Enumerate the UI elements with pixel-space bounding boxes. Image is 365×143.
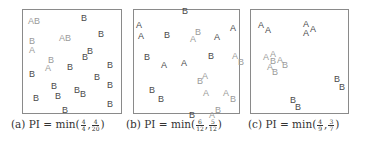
caption-suffix: ): [335, 118, 339, 130]
point-label-b: B: [80, 90, 86, 99]
point-label-b: B: [98, 30, 104, 39]
scatter-panel-a: ABBBABBABBBABBBBBBBBBBBB: [22, 9, 122, 114]
point-label-a: A: [161, 61, 167, 70]
point-label-a: A: [214, 33, 220, 42]
point-label-b: B: [55, 92, 61, 101]
point-label-b: B: [149, 86, 155, 95]
point-label-b: B: [197, 77, 203, 86]
denominator: 7: [328, 126, 334, 132]
point-label-a: A: [136, 21, 142, 30]
point-label-a: A: [203, 89, 209, 98]
point-label-a: A: [310, 25, 316, 34]
caption-suffix: ): [218, 118, 222, 130]
point-label-b: B: [94, 73, 100, 82]
point-label-a: A: [223, 89, 229, 98]
denominator: 9: [317, 126, 323, 132]
point-label-b: B: [51, 82, 57, 91]
point-label-b: B: [164, 31, 170, 40]
point-label-b: B: [81, 14, 87, 23]
caption-a: (a) PI = min(44,420): [11, 118, 105, 132]
denominator: 12: [209, 126, 217, 132]
separator: ,: [87, 118, 90, 130]
point-label-b: B: [62, 106, 68, 115]
point-label-b: B: [67, 63, 73, 72]
point-label-b: B: [339, 83, 345, 92]
scatter-panel-c: AAAAAAABABABBBBB: [250, 9, 349, 114]
fraction-2: 512: [209, 119, 217, 132]
separator: ,: [324, 118, 327, 130]
point-label-b: B: [144, 53, 150, 62]
point-label-b: B: [158, 95, 164, 104]
point-label-a: A: [190, 35, 196, 44]
point-label-b: B: [29, 70, 35, 79]
fraction-1: 44: [81, 119, 87, 132]
point-label-b: B: [107, 100, 113, 109]
point-label-b: B: [272, 68, 278, 77]
point-label-b: B: [33, 94, 39, 103]
point-label-b: B: [282, 61, 288, 70]
point-label-b: B: [230, 95, 236, 104]
point-label-a: A: [303, 29, 309, 38]
caption-suffix: ): [100, 118, 104, 130]
point-label-ab: AB: [59, 34, 71, 43]
point-label-ab: AB: [28, 17, 40, 26]
point-label-b: B: [82, 53, 88, 62]
point-label-a: A: [29, 46, 35, 55]
point-label-b: B: [107, 61, 113, 70]
scatter-panel-b: BAAABBAABBABAAABBAABBBAB: [133, 9, 240, 114]
denominator: 4: [81, 126, 87, 132]
point-label-b: B: [238, 58, 244, 67]
caption-prefix: (c) PI = min(: [248, 118, 316, 130]
point-label-b: B: [295, 103, 301, 112]
point-label-a: A: [181, 59, 187, 68]
caption-prefix: (a) PI = min(: [11, 118, 80, 130]
denominator: 12: [196, 126, 204, 132]
point-label-b: B: [215, 106, 221, 115]
caption-c: (c) PI = min(49,37): [248, 118, 339, 132]
point-label-a: A: [230, 24, 236, 33]
caption-b: (b) PI = min(612,512): [126, 118, 222, 132]
point-label-b: B: [182, 7, 188, 16]
fraction-1: 612: [196, 119, 204, 132]
denominator: 20: [92, 126, 100, 132]
point-label-a: A: [45, 64, 51, 73]
separator: ,: [205, 118, 208, 130]
fraction-1: 49: [317, 119, 323, 132]
point-label-b: B: [107, 81, 113, 90]
point-label-a: A: [138, 32, 144, 41]
point-label-a: A: [258, 21, 264, 30]
point-label-b: B: [208, 52, 214, 61]
fraction-2: 420: [92, 119, 100, 132]
caption-prefix: (b) PI = min(: [126, 118, 195, 130]
fraction-2: 37: [328, 119, 334, 132]
point-label-a: A: [265, 26, 271, 35]
point-label-a: A: [263, 53, 269, 62]
